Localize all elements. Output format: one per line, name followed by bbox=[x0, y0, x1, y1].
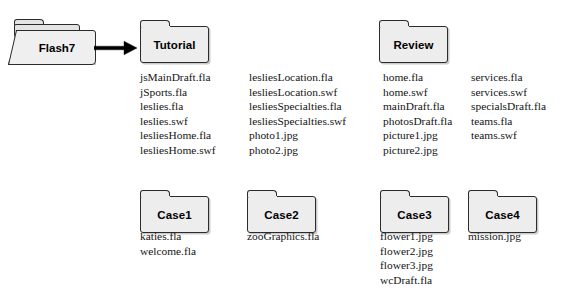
folder-icon-review[interactable]: Review bbox=[379, 20, 448, 63]
file-item: picture2.jpg bbox=[383, 143, 452, 158]
file-item: flower3.jpg bbox=[380, 258, 433, 273]
file-list-review-col2: services.fla services.swf specialsDraft.… bbox=[471, 70, 546, 143]
folder-icon-case2[interactable]: Case2 bbox=[247, 190, 316, 233]
file-item: teams.fla bbox=[471, 114, 546, 129]
file-item: picture1.jpg bbox=[383, 128, 452, 143]
folder-icon-case3[interactable]: Case3 bbox=[380, 190, 449, 233]
file-item: services.fla bbox=[471, 70, 546, 85]
file-item: lesliesSpecialties.swf bbox=[249, 114, 346, 129]
file-item: flower2.jpg bbox=[380, 244, 433, 259]
folder-label-review: Review bbox=[379, 26, 448, 63]
diagram-canvas: Flash7 Tutorial jsMainDraft.fla jSports.… bbox=[0, 0, 565, 297]
file-item: teams.swf bbox=[471, 128, 546, 143]
file-item: home.fla bbox=[383, 70, 452, 85]
file-item: welcome.fla bbox=[140, 244, 196, 259]
folder-icon-case1[interactable]: Case1 bbox=[140, 190, 209, 233]
file-item: lesliesLocation.swf bbox=[249, 85, 346, 100]
right-arrow-icon bbox=[94, 39, 138, 57]
file-item: home.swf bbox=[383, 85, 452, 100]
file-item: lesliesHome.fla bbox=[140, 128, 216, 143]
file-list-tutorial-col1: jsMainDraft.fla jSports.fla leslies.fla … bbox=[140, 70, 216, 157]
file-item: leslies.swf bbox=[140, 114, 216, 129]
file-item: lesliesSpecialties.fla bbox=[249, 99, 346, 114]
file-list-case3: flower1.jpg flower2.jpg flower3.jpg wcDr… bbox=[380, 229, 433, 287]
file-item: services.swf bbox=[471, 85, 546, 100]
folder-icon-case4[interactable]: Case4 bbox=[468, 190, 537, 233]
folder-label-case4: Case4 bbox=[468, 196, 537, 233]
file-item: jSports.fla bbox=[140, 85, 216, 100]
file-item: photosDraft.fla bbox=[383, 114, 452, 129]
folder-label-case3: Case3 bbox=[380, 196, 449, 233]
folder-icon-tutorial[interactable]: Tutorial bbox=[140, 20, 209, 63]
file-item: photo1.jpg bbox=[249, 128, 346, 143]
open-folder-icon-flash7[interactable]: Flash7 bbox=[8, 19, 96, 65]
folder-label-flash7: Flash7 bbox=[20, 30, 94, 65]
file-item: lesliesHome.swf bbox=[140, 143, 216, 158]
folder-label-case2: Case2 bbox=[247, 196, 316, 233]
file-item: photo2.jpg bbox=[249, 143, 346, 158]
file-item: lesliesLocation.fla bbox=[249, 70, 346, 85]
file-list-case1: katies.fla welcome.fla bbox=[140, 229, 196, 258]
folder-label-tutorial: Tutorial bbox=[140, 26, 209, 63]
file-item: leslies.fla bbox=[140, 99, 216, 114]
file-list-tutorial-col2: lesliesLocation.fla lesliesLocation.swf … bbox=[249, 70, 346, 157]
file-list-review-col1: home.fla home.swf mainDraft.fla photosDr… bbox=[383, 70, 452, 157]
file-item: mainDraft.fla bbox=[383, 99, 452, 114]
file-item: specialsDraft.fla bbox=[471, 99, 546, 114]
file-item: jsMainDraft.fla bbox=[140, 70, 216, 85]
folder-label-case1: Case1 bbox=[140, 196, 209, 233]
file-item: wcDraft.fla bbox=[380, 273, 433, 288]
